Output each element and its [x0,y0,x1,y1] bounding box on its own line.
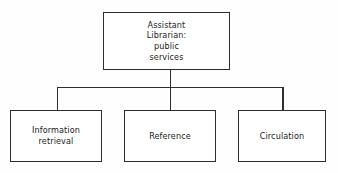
connector-drop-reference [170,87,172,111]
node-label-information-retrieval: Information retrieval [29,125,83,146]
diagram-canvas: Assistant Librarian: public services Inf… [0,0,338,173]
node-assistant-librarian-public-services[interactable]: Assistant Librarian: public services [103,12,230,70]
node-label-reference: Reference [146,131,194,142]
node-label-circulation: Circulation [257,131,307,142]
node-reference[interactable]: Reference [124,110,216,162]
connector-drop-circulation [282,87,284,111]
connector-root-stem [170,70,172,88]
node-information-retrieval[interactable]: Information retrieval [10,110,102,162]
node-circulation[interactable]: Circulation [238,110,326,162]
connector-drop-information-retrieval [57,87,59,111]
node-label-root: Assistant Librarian: public services [144,20,190,62]
